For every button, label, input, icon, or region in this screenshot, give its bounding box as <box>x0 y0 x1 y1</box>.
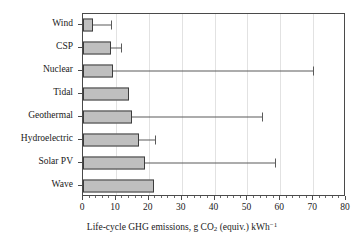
x-axis-major-tick <box>246 196 247 200</box>
x-axis-minor-tick <box>220 196 221 198</box>
bar <box>83 65 113 78</box>
error-bar-line <box>139 139 155 140</box>
error-bar-cap <box>313 67 314 76</box>
x-axis-minor-tick <box>108 196 109 198</box>
x-axis-minor-tick <box>194 196 195 198</box>
x-axis-minor-tick <box>187 196 188 198</box>
x-axis-title-superscript: −1 <box>270 221 277 229</box>
x-axis-minor-tick <box>253 196 254 198</box>
x-axis-minor-tick <box>161 196 162 198</box>
y-axis-label-csp: CSP <box>0 42 73 52</box>
x-axis-tick-label: 70 <box>297 203 327 213</box>
y-axis-tick <box>78 47 82 48</box>
x-axis-minor-tick <box>338 196 339 198</box>
x-axis-title: Life-cycle GHG emissions, g CO2 (equiv.)… <box>0 222 364 233</box>
x-axis-minor-tick <box>128 196 129 198</box>
x-axis-minor-tick <box>174 196 175 198</box>
x-axis-minor-tick <box>266 196 267 198</box>
bar-row <box>83 37 344 60</box>
x-axis-minor-tick <box>332 196 333 198</box>
plot-area <box>82 13 345 196</box>
bar-chart: WindCSPNuclearTidalGeothermalHydroelectr… <box>0 0 364 247</box>
x-axis-tick-label: 40 <box>199 203 229 213</box>
x-axis-tick-label: 0 <box>67 203 97 213</box>
bar <box>83 88 129 101</box>
bar-row <box>83 151 344 174</box>
bar-row <box>83 106 344 129</box>
y-axis-tick <box>78 139 82 140</box>
x-axis-minor-tick <box>95 196 96 198</box>
x-axis-tick-label: 50 <box>231 203 261 213</box>
y-axis-tick <box>78 116 82 117</box>
y-axis-label-geothermal: Geothermal <box>0 111 73 121</box>
x-axis-minor-tick <box>299 196 300 198</box>
error-bar-cap <box>111 21 112 30</box>
y-axis-label-wave: Wave <box>0 180 73 190</box>
x-axis-minor-tick <box>240 196 241 198</box>
y-axis-tick <box>78 185 82 186</box>
bar <box>83 42 111 55</box>
y-axis-tick <box>78 24 82 25</box>
x-axis-minor-tick <box>292 196 293 198</box>
x-axis-major-tick <box>214 196 215 200</box>
x-axis-minor-tick <box>121 196 122 198</box>
x-axis-major-tick <box>181 196 182 200</box>
x-axis-tick-label: 10 <box>100 203 130 213</box>
error-bar-line <box>93 25 111 26</box>
bar <box>83 156 145 169</box>
y-axis-label-hydroelectric: Hydroelectric <box>0 134 73 144</box>
x-axis-minor-tick <box>207 196 208 198</box>
bar <box>83 133 139 146</box>
bar-row <box>83 128 344 151</box>
x-axis-minor-tick <box>89 196 90 198</box>
x-axis-minor-tick <box>306 196 307 198</box>
x-axis-minor-tick <box>260 196 261 198</box>
y-axis-label-tidal: Tidal <box>0 88 73 98</box>
x-axis-minor-tick <box>167 196 168 198</box>
y-axis-tick <box>78 93 82 94</box>
bar <box>83 110 132 123</box>
x-axis-minor-tick <box>200 196 201 198</box>
y-axis-label-solar-pv: Solar PV <box>0 157 73 167</box>
bar <box>83 19 93 32</box>
error-bar-line <box>111 48 121 49</box>
x-axis-minor-tick <box>227 196 228 198</box>
y-axis-label-wind: Wind <box>0 19 73 29</box>
y-axis-tick <box>78 162 82 163</box>
bar-row <box>83 174 344 197</box>
error-bar-cap <box>275 158 276 167</box>
x-axis-minor-tick <box>325 196 326 198</box>
x-axis-tick-label: 20 <box>133 203 163 213</box>
x-axis-tick-label: 60 <box>264 203 294 213</box>
x-axis-minor-tick <box>154 196 155 198</box>
error-bar-line <box>132 116 262 117</box>
x-axis-major-tick <box>312 196 313 200</box>
x-axis-minor-tick <box>286 196 287 198</box>
error-bar-cap <box>262 112 263 121</box>
x-axis-major-tick <box>148 196 149 200</box>
bar-row <box>83 14 344 37</box>
bar <box>83 179 154 192</box>
x-axis-title-lead: Life-cycle GHG emissions, g CO <box>87 222 214 232</box>
x-axis-major-tick <box>82 196 83 200</box>
error-bar-cap <box>121 44 122 53</box>
bar-row <box>83 60 344 83</box>
y-axis-tick <box>78 70 82 71</box>
y-axis-label-nuclear: Nuclear <box>0 65 73 75</box>
x-axis-title-mid: (equiv.) kWh <box>217 222 269 232</box>
x-axis-minor-tick <box>141 196 142 198</box>
x-axis-tick-label: 80 <box>330 203 360 213</box>
x-axis-minor-tick <box>135 196 136 198</box>
error-bar-cap <box>155 135 156 144</box>
error-bar-line <box>113 71 314 72</box>
error-bar-line <box>145 162 275 163</box>
x-axis-major-tick <box>279 196 280 200</box>
x-axis-minor-tick <box>102 196 103 198</box>
x-axis-tick-label: 30 <box>166 203 196 213</box>
bar-row <box>83 83 344 106</box>
x-axis-minor-tick <box>319 196 320 198</box>
x-axis-minor-tick <box>273 196 274 198</box>
x-axis-major-tick <box>345 196 346 200</box>
x-axis-major-tick <box>115 196 116 200</box>
x-axis-minor-tick <box>233 196 234 198</box>
